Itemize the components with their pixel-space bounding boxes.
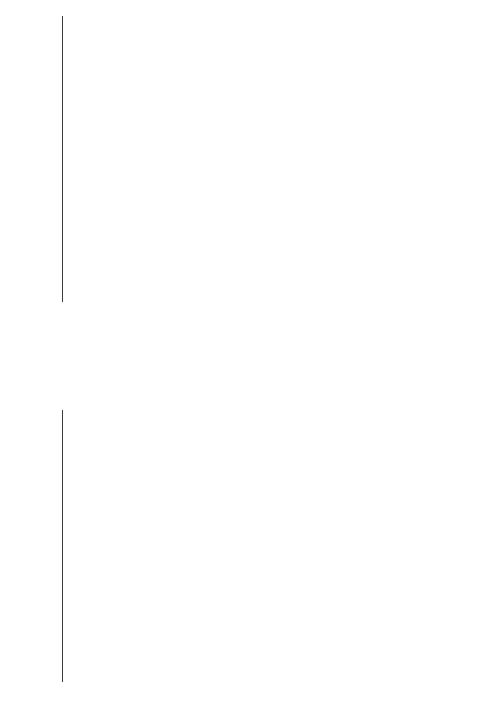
percent-of-payroll-chart <box>0 0 478 332</box>
dollars-per-employee-chart <box>0 396 478 714</box>
chart-bottom-plot-area <box>62 410 466 682</box>
chart-top-plot-area <box>62 16 466 302</box>
